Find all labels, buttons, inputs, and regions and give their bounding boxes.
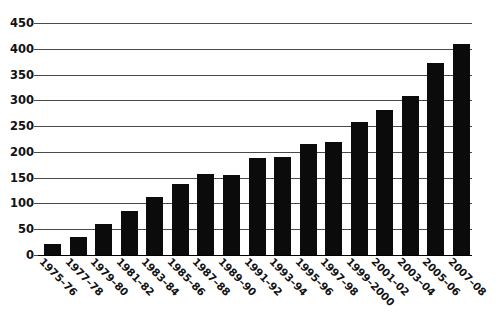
y-tick-label: 450 [10,17,34,29]
bar [70,237,87,255]
y-tick-mark [34,229,38,230]
y-tick-label: 150 [10,172,34,184]
bar [146,197,163,255]
y-tick-mark [34,178,38,179]
bar [325,142,342,255]
y-tick-label: 100 [10,197,34,209]
y-tick-mark [34,203,38,204]
bar [223,175,240,255]
bar [249,158,266,255]
y-tick-label: 300 [10,94,34,106]
bar [172,184,189,255]
bar [453,44,470,255]
bar-chart: 050100150200250300350400450 1975–761977–… [0,0,503,317]
y-tick-label: 50 [18,223,34,235]
bar [121,211,138,255]
y-tick-mark [34,255,38,256]
y-tick-mark [34,152,38,153]
y-tick-mark [34,100,38,101]
bar [95,224,112,255]
y-tick-mark [34,49,38,50]
bar [44,244,61,255]
bar [351,122,368,255]
y-tick-label: 0 [26,249,34,261]
bars-layer [38,23,472,255]
x-axis: 1975–761977–781979–801981–821983–841985–… [38,256,498,317]
y-tick-mark [34,23,38,24]
y-tick-label: 400 [10,43,34,55]
y-tick-label: 200 [10,146,34,158]
y-tick-label: 250 [10,120,34,132]
y-tick-mark [34,75,38,76]
y-tick-label: 350 [10,69,34,81]
y-axis: 050100150200250300350400450 [0,23,34,255]
bar [300,144,317,255]
bar [197,174,214,255]
bar [402,96,419,255]
bar [376,110,393,255]
bar [274,157,291,255]
bar [427,63,444,255]
y-tick-mark [34,126,38,127]
